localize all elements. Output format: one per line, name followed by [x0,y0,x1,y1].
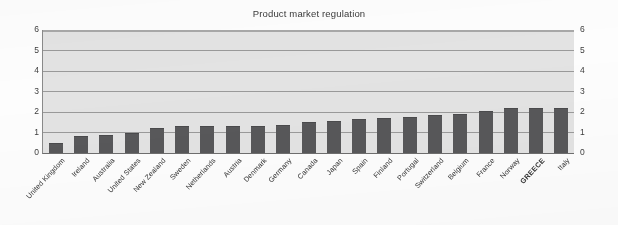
bar [327,121,341,153]
bar-series [43,30,574,153]
y-tick-right-1: 1 [580,128,594,137]
x-axis-label: Ireland [69,156,91,179]
bar [276,125,290,153]
bar [428,115,442,153]
x-axis-label: Austria [221,156,243,179]
y-tick-left-5: 5 [25,46,39,55]
x-axis-label: United Kingdom [24,156,66,201]
bar [504,108,518,153]
x-axis-label: Italy [556,156,572,172]
y-tick-right-3: 3 [580,87,594,96]
bar [529,108,543,153]
bar [49,143,63,153]
x-axis-label: Denmark [242,156,269,184]
y-tick-right-6: 6 [580,25,594,34]
x-axis-label: Belgium [446,156,471,182]
x-axis-label: Canada [295,156,319,181]
bar [453,114,467,153]
y-tick-left-4: 4 [25,66,39,75]
x-axis-label: Finland [372,156,395,180]
x-axis-labels: United KingdomIrelandAustraliaUnited Sta… [42,153,573,223]
x-axis-label: Spain [350,156,369,176]
bar [200,126,214,153]
chart-figure: Product market regulation 0123456 012345… [0,0,618,225]
y-tick-left-3: 3 [25,87,39,96]
y-tick-right-0: 0 [580,148,594,157]
bar [479,111,493,153]
bar [251,126,265,153]
x-axis-label: Japan [324,156,344,177]
chart-title: Product market regulation [0,8,618,19]
bar [302,122,316,153]
x-axis-label: Germany [267,156,294,184]
y-tick-left-2: 2 [25,107,39,116]
bar [226,126,240,153]
bar [150,128,164,153]
bar [99,135,113,153]
y-tick-right-5: 5 [580,46,594,55]
plot-area [42,30,574,154]
y-tick-left-0: 0 [25,148,39,157]
bar [352,119,366,153]
x-axis-label: France [474,156,496,179]
y-tick-left-6: 6 [25,25,39,34]
x-axis-label: GREECE [518,156,547,186]
x-axis-label: Norway [498,156,522,180]
bar [175,126,189,153]
bar [403,117,417,153]
y-tick-right-2: 2 [580,107,594,116]
bar [74,136,88,153]
bar [554,108,568,153]
y-tick-left-1: 1 [25,128,39,137]
bar [377,118,391,153]
y-tick-right-4: 4 [580,66,594,75]
bar [125,133,139,154]
